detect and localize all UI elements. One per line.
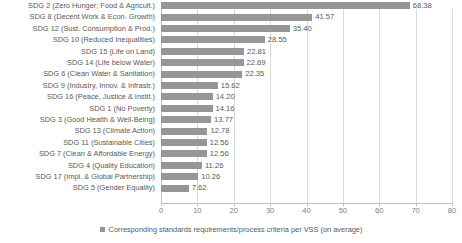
bar[interactable] xyxy=(161,25,290,32)
x-tick-label: 20 xyxy=(219,206,249,215)
bar-row: SDG 7 (Clean & Affordable Energy)12.56 xyxy=(0,148,462,159)
bar-row: SDG 3 (Good Health & Well-Being)13.77 xyxy=(0,114,462,125)
legend-label: Corresponding standards requirements/pro… xyxy=(109,225,363,234)
bar[interactable] xyxy=(161,185,189,192)
category-label: SDG 5 (Gender Equality) xyxy=(73,182,155,193)
x-tick-label: 40 xyxy=(292,206,322,215)
category-label: SDG 17 (Impl. & Global Partnership) xyxy=(35,171,155,182)
bar-container: 22.81 xyxy=(161,46,244,57)
bar-row: SDG 13 (Climate Action)12.78 xyxy=(0,125,462,136)
bar-container: 22.35 xyxy=(161,68,242,79)
x-tick-label: 0 xyxy=(146,206,176,215)
bar-value-label: 11.26 xyxy=(202,160,223,171)
bar-value-label: 7.62 xyxy=(189,182,207,193)
x-tick-label: 60 xyxy=(364,206,394,215)
bar-value-label: 14.16 xyxy=(213,103,235,114)
category-label: SDG 8 (Decent Work & Econ. Growth) xyxy=(29,11,155,22)
category-label: SDG 2 (Zero Hunger; Food & Agricult.) xyxy=(28,0,155,11)
x-tick-label: 30 xyxy=(255,206,285,215)
bar-row: SDG 4 (Quality Education)11.26 xyxy=(0,160,462,171)
bar-row: SDG 6 (Clean Water & Sanitation)22.35 xyxy=(0,68,462,79)
bar-container: 13.77 xyxy=(161,114,211,125)
chart-legend: Corresponding standards requirements/pro… xyxy=(0,225,462,234)
bar[interactable] xyxy=(161,93,213,100)
bar[interactable] xyxy=(161,36,265,43)
bar-value-label: 12.56 xyxy=(207,148,229,159)
bar-row: SDG 14 (Life below Water)22.69 xyxy=(0,57,462,68)
bar-row: SDG 16 (Peace, Justice & Instit.)14.20 xyxy=(0,91,462,102)
category-label: SDG 11 (Sustainable Cities) xyxy=(63,137,155,148)
bar-value-label: 41.57 xyxy=(312,11,334,22)
bar-container: 12.56 xyxy=(161,148,207,159)
bar-container: 35.40 xyxy=(161,23,290,34)
bar-value-label: 68.38 xyxy=(410,0,432,11)
bar-row: SDG 1 (No Poverty)14.16 xyxy=(0,103,462,114)
category-label: SDG 1 (No Poverty) xyxy=(89,103,155,114)
category-label: SDG 15 (Life on Land) xyxy=(81,46,155,57)
bar-row: SDG 11 (Sustainable Cities)12.56 xyxy=(0,137,462,148)
category-label: SDG 3 (Good Health & Well-Being) xyxy=(40,114,155,125)
bar[interactable] xyxy=(161,116,211,123)
x-tick-label: 10 xyxy=(182,206,212,215)
category-label: SDG 9 (Industry, Innov. & Infrastr.) xyxy=(43,80,155,91)
bar[interactable] xyxy=(161,162,202,169)
category-label: SDG 10 (Reduced Inequalities) xyxy=(53,34,155,45)
bar-container: 7.62 xyxy=(161,182,189,193)
bar[interactable] xyxy=(161,128,207,135)
bar[interactable] xyxy=(161,139,207,146)
bar-container: 10.26 xyxy=(161,171,198,182)
x-tick-label: 50 xyxy=(328,206,358,215)
category-label: SDG 7 (Clean & Affordable Energy) xyxy=(39,148,155,159)
category-label: SDG 14 (Life below Water) xyxy=(67,57,155,68)
bar-container: 28.55 xyxy=(161,34,265,45)
bar-container: 41.57 xyxy=(161,11,312,22)
bar-value-label: 28.55 xyxy=(265,34,287,45)
bar-row: SDG 9 (Industry, Innov. & Infrastr.)15.6… xyxy=(0,80,462,91)
category-label: SDG 13 (Climate Action) xyxy=(74,125,155,136)
bar[interactable] xyxy=(161,48,244,55)
bar-container: 14.20 xyxy=(161,91,213,102)
bar-container: 15.62 xyxy=(161,80,218,91)
bar-value-label: 22.35 xyxy=(242,68,264,79)
bar[interactable] xyxy=(161,150,207,157)
bar-row: SDG 12 (Sust. Consumption & Prod.)35.40 xyxy=(0,23,462,34)
bar-value-label: 12.56 xyxy=(207,137,229,148)
bar[interactable] xyxy=(161,82,218,89)
bar-value-label: 13.77 xyxy=(211,114,233,125)
bar[interactable] xyxy=(161,2,410,9)
bar-container: 12.56 xyxy=(161,137,207,148)
bar-value-label: 14.20 xyxy=(213,91,235,102)
bar-container: 22.69 xyxy=(161,57,244,68)
bar-value-label: 12.78 xyxy=(207,125,229,136)
bar-rows: SDG 2 (Zero Hunger; Food & Agricult.)68.… xyxy=(0,0,462,194)
bar-row: SDG 10 (Reduced Inequalities)28.55 xyxy=(0,34,462,45)
bar[interactable] xyxy=(161,59,244,66)
bar-container: 68.38 xyxy=(161,0,410,11)
bar-value-label: 22.69 xyxy=(244,57,266,68)
bar[interactable] xyxy=(161,173,198,180)
bar[interactable] xyxy=(161,14,312,21)
bar-value-label: 35.40 xyxy=(290,23,312,34)
category-label: SDG 6 (Clean Water & Sanitation) xyxy=(43,68,155,79)
bar-row: SDG 17 (Impl. & Global Partnership)10.26 xyxy=(0,171,462,182)
category-label: SDG 12 (Sust. Consumption & Prod.) xyxy=(33,23,155,34)
bar-container: 12.78 xyxy=(161,125,207,136)
bar-container: 11.26 xyxy=(161,160,202,171)
bar-value-label: 15.62 xyxy=(218,80,240,91)
legend-swatch xyxy=(100,227,105,232)
bar-container: 14.16 xyxy=(161,103,213,114)
bar-row: SDG 5 (Gender Equality)7.62 xyxy=(0,182,462,193)
category-label: SDG 4 (Quality Education) xyxy=(68,160,155,171)
x-tick-label: 70 xyxy=(401,206,431,215)
bar-row: SDG 2 (Zero Hunger; Food & Agricult.)68.… xyxy=(0,0,462,11)
bar-row: SDG 8 (Decent Work & Econ. Growth)41.57 xyxy=(0,11,462,22)
bar-value-label: 22.81 xyxy=(244,46,266,57)
bar-row: SDG 15 (Life on Land)22.81 xyxy=(0,46,462,57)
bar-value-label: 10.26 xyxy=(198,171,220,182)
bar[interactable] xyxy=(161,71,242,78)
bar[interactable] xyxy=(161,105,213,112)
bar-chart: SDG 2 (Zero Hunger; Food & Agricult.)68.… xyxy=(0,0,462,243)
x-tick-label: 80 xyxy=(437,206,462,215)
category-label: SDG 16 (Peace, Justice & Instit.) xyxy=(47,91,155,102)
